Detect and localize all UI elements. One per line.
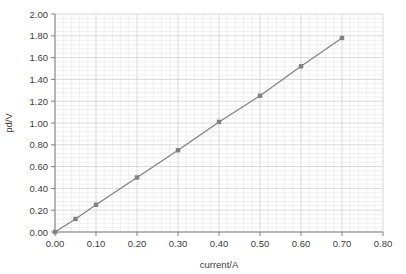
x-axis-tick-label: 0.80: [374, 238, 393, 249]
y-axis-tick-label: 2.00: [30, 9, 49, 20]
data-point-marker: [258, 94, 262, 98]
x-axis-tick-label: 0.20: [128, 238, 147, 249]
x-axis-tick-label: 0.40: [210, 238, 229, 249]
data-point-marker: [217, 120, 221, 124]
y-axis-tick-label: 0.40: [30, 183, 49, 194]
x-axis-tick-label: 0.60: [292, 238, 311, 249]
x-axis-tick-label: 0.10: [87, 238, 106, 249]
y-axis-tick-label: 1.40: [30, 74, 49, 85]
data-point-marker: [299, 64, 303, 68]
y-axis-tick-label: 0.00: [30, 227, 49, 238]
data-point-marker: [340, 36, 344, 40]
chart-container: 0.000.100.200.300.400.500.600.700.80 0.0…: [0, 0, 406, 274]
y-axis-title: pd/V: [3, 113, 14, 133]
data-point-marker: [73, 217, 77, 221]
data-point-marker: [135, 175, 139, 179]
y-axis-tick-label: 1.20: [30, 96, 49, 107]
data-point-marker: [53, 230, 57, 234]
y-axis-tick-label: 0.20: [30, 205, 49, 216]
x-axis-tick-label: 0.30: [169, 238, 188, 249]
y-axis-tick-label: 1.80: [30, 30, 49, 41]
y-axis-tick-label: 1.60: [30, 52, 49, 63]
x-axis-title: current/A: [200, 259, 239, 270]
data-point-marker: [176, 148, 180, 152]
y-axis-tick-label: 1.00: [30, 118, 49, 129]
x-axis-tick-label: 0.70: [333, 238, 352, 249]
x-axis-tick-label: 0.50: [251, 238, 270, 249]
x-axis-tick-labels: 0.000.100.200.300.400.500.600.700.80: [46, 238, 393, 249]
y-axis-tick-label: 0.80: [30, 139, 49, 150]
line-chart: 0.000.100.200.300.400.500.600.700.80 0.0…: [0, 0, 406, 274]
y-axis-tick-label: 0.60: [30, 161, 49, 172]
x-axis-tick-label: 0.00: [46, 238, 65, 249]
data-point-marker: [94, 203, 98, 207]
